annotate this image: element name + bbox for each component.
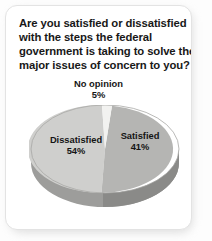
slice-label-satisfied: Satisfied 41% <box>111 131 169 153</box>
screenshot-root: Are you satisfied or dissatisfied with t… <box>0 0 212 241</box>
slice-label-satisfied-value: 41% <box>111 142 169 153</box>
survey-result-card: Are you satisfied or dissatisfied with t… <box>5 5 192 230</box>
page-title-line-3: government is taking to solve the <box>19 44 181 58</box>
slice-label-no-opinion: No opinion 5% <box>6 78 191 101</box>
page-title-line-2: with the steps the federal <box>19 30 181 44</box>
slice-label-dissatisfied-name: Dissatisfied <box>50 135 102 145</box>
slice-label-no-opinion-name: No opinion <box>74 78 123 89</box>
slice-label-satisfied-name: Satisfied <box>121 131 160 141</box>
page-title: Are you satisfied or dissatisfied with t… <box>19 16 181 72</box>
pie-graphic: Dissatisfied 54% Satisfied 41% <box>29 105 181 209</box>
pie-chart: No opinion 5% <box>6 78 191 228</box>
page-title-line-1: Are you satisfied or dissatisfied <box>19 16 181 30</box>
page-title-line-4: major issues of concern to you? <box>19 58 181 72</box>
slice-label-dissatisfied-value: 54% <box>43 146 109 157</box>
slice-label-no-opinion-value: 5% <box>6 89 191 100</box>
slice-label-dissatisfied: Dissatisfied 54% <box>43 135 109 157</box>
